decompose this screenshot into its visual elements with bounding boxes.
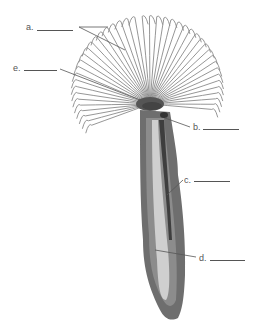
blank-e[interactable] (24, 70, 57, 71)
label-e: e. (13, 63, 21, 73)
leader-a2 (79, 27, 125, 50)
blank-a[interactable] (37, 30, 73, 31)
tentacle (79, 54, 150, 104)
tube (140, 102, 185, 320)
mouth-opening (160, 112, 168, 118)
label-c: c. (184, 175, 191, 185)
worm-illustration (0, 0, 255, 335)
tentacle (76, 60, 150, 104)
label-a: a. (26, 22, 34, 32)
tentacle (150, 62, 220, 104)
label-d: d. (199, 253, 207, 263)
crown-opening (142, 102, 162, 110)
blank-b[interactable] (203, 129, 239, 130)
blank-c[interactable] (194, 181, 230, 182)
blank-d[interactable] (210, 260, 245, 261)
tentacle (150, 44, 211, 104)
diagram: a. e. b. c. d. (0, 0, 255, 335)
label-b: b. (193, 122, 201, 132)
